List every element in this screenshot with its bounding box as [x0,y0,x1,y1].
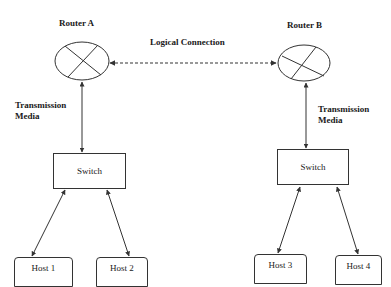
switch-a-label: Switch [77,166,102,176]
link-switch-a-host-1 [32,190,65,256]
transmission-media-a-line2: Media [15,111,66,122]
host-3-label: Host 3 [269,260,293,270]
host-2: Host 2 [96,257,148,287]
transmission-media-b-line1: Transmission [318,104,369,115]
router-b-icon [278,45,330,81]
host-4: Host 4 [335,255,382,285]
link-switch-b-host-3 [278,187,300,253]
switch-b-label: Switch [300,162,325,172]
switch-b: Switch [277,149,349,185]
host-4-label: Host 4 [347,261,371,271]
host-1-label: Host 1 [32,263,56,273]
transmission-media-label-a: Transmission Media [15,100,66,122]
switch-a: Switch [53,153,126,189]
transmission-media-b-line2: Media [318,115,369,126]
router-b-label: Router B [287,20,322,31]
host-2-label: Host 2 [110,263,134,273]
router-a-icon [55,42,109,80]
link-switch-b-host-4 [337,187,358,254]
host-1: Host 1 [14,257,73,287]
logical-connection-label: Logical Connection [150,37,225,48]
link-switch-a-host-2 [107,190,129,256]
router-a-label: Router A [59,18,94,29]
transmission-media-label-b: Transmission Media [318,104,369,126]
host-3: Host 3 [254,254,307,284]
transmission-media-a-line1: Transmission [15,100,66,111]
